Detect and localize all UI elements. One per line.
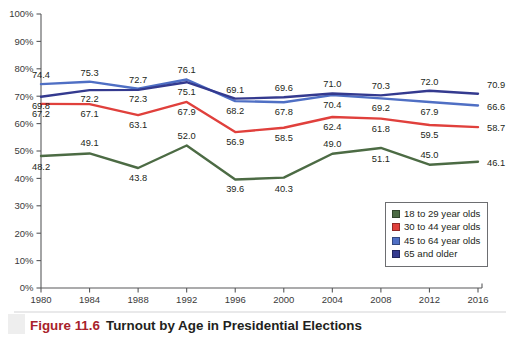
x-tick-label: 1996	[225, 294, 246, 305]
data-point-label: 68.2	[226, 106, 244, 116]
legend-swatch-icon	[392, 237, 400, 245]
data-point-label: 69.1	[226, 85, 244, 95]
x-tick-label: 1984	[79, 294, 100, 305]
y-tick-label: 90%	[14, 36, 34, 47]
data-point-label: 67.9	[420, 107, 438, 117]
y-tick-label: 50%	[14, 145, 34, 156]
data-point-label: 59.5	[420, 130, 438, 140]
legend-item: 30 to 44 year olds	[392, 221, 480, 235]
x-tick-label: 2008	[370, 294, 391, 305]
legend-swatch-icon	[392, 250, 400, 258]
x-tick-label: 1992	[176, 294, 197, 305]
x-tick-label: 1988	[128, 294, 149, 305]
y-tick-label: 10%	[14, 255, 34, 266]
data-point-label: 67.9	[178, 107, 196, 117]
legend-label: 30 to 44 year olds	[404, 222, 480, 232]
data-point-label: 40.3	[275, 184, 293, 194]
data-point-label: 51.1	[372, 154, 390, 164]
legend-item: 45 to 64 year olds	[392, 234, 480, 248]
data-point-label: 45.0	[420, 150, 438, 160]
data-point-label: 67.1	[81, 109, 99, 119]
data-point-label: 72.3	[129, 94, 147, 104]
data-point-label: 49.1	[81, 138, 99, 148]
data-point-label: 70.4	[323, 100, 341, 110]
data-point-label: 69.6	[275, 83, 293, 93]
x-tick-label: 2012	[419, 294, 440, 305]
legend-item: 18 to 29 year olds	[392, 207, 480, 221]
data-point-label: 67.8	[275, 107, 293, 117]
legend-label: 65 and older	[404, 249, 457, 259]
y-tick-label: 100%	[9, 8, 34, 19]
series-line	[41, 146, 478, 180]
data-point-label: 62.4	[323, 122, 341, 132]
data-point-label: 71.0	[323, 79, 341, 89]
data-point-label: 75.1	[178, 87, 196, 97]
data-point-label: 69.8	[32, 101, 50, 111]
data-point-label: 74.4	[32, 70, 50, 80]
data-point-label: 56.9	[226, 137, 244, 147]
chart-legend: 18 to 29 year olds30 to 44 year olds45 t…	[385, 202, 488, 267]
data-point-label: 69.2	[372, 103, 390, 113]
data-point-label: 58.5	[275, 133, 293, 143]
figure-caption-bar: Figure 11.6Turnout by Age in Presidentia…	[0, 311, 514, 347]
legend-item: 65 and older	[392, 248, 480, 262]
data-point-label: 76.1	[178, 65, 196, 75]
y-tick-label: 60%	[14, 118, 34, 129]
y-tick-label: 40%	[14, 173, 34, 184]
data-point-label: 49.0	[323, 139, 341, 149]
legend-swatch-icon	[392, 210, 400, 218]
legend-swatch-icon	[392, 223, 400, 231]
figure-title: Turnout by Age in Presidential Elections	[106, 318, 362, 333]
y-tick-label: 20%	[14, 228, 34, 239]
y-tick-label: 30%	[14, 200, 34, 211]
x-tick-label: 2016	[467, 294, 488, 305]
legend-label: 45 to 64 year olds	[404, 236, 480, 246]
caption-divider	[14, 311, 506, 313]
data-point-label: 70.9	[487, 80, 505, 90]
data-point-label: 72.7	[129, 75, 147, 85]
series-line	[41, 102, 478, 132]
data-point-label: 72.2	[81, 94, 99, 104]
y-tick-label: 0%	[20, 282, 34, 293]
data-point-label: 46.1	[487, 158, 505, 168]
data-point-label: 75.3	[81, 68, 99, 78]
data-point-label: 70.3	[372, 81, 390, 91]
data-point-label: 63.1	[129, 120, 147, 130]
figure-container: 0%10%20%30%40%50%60%70%80%90%100%1980198…	[0, 0, 514, 347]
data-point-label: 61.8	[372, 124, 390, 134]
figure-number: Figure 11.6	[30, 318, 100, 333]
data-point-label: 48.2	[32, 162, 50, 172]
caption-corner-mark	[8, 314, 25, 334]
data-point-label: 52.0	[178, 131, 196, 141]
data-point-label: 66.6	[487, 102, 505, 112]
x-tick-label: 1980	[30, 294, 51, 305]
data-point-label: 72.0	[420, 77, 438, 87]
data-point-label: 58.7	[487, 123, 505, 133]
data-point-label: 39.6	[226, 184, 244, 194]
data-point-label: 43.8	[129, 173, 147, 183]
x-tick-label: 2000	[273, 294, 294, 305]
legend-label: 18 to 29 year olds	[404, 209, 480, 219]
x-tick-label: 2004	[322, 294, 343, 305]
figure-caption: Figure 11.6Turnout by Age in Presidentia…	[30, 319, 508, 334]
